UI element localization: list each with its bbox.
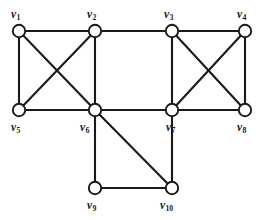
vertex-label-subscript: 9: [92, 204, 96, 213]
vertex-label-v7: v7: [166, 122, 175, 134]
graph-vertex-v10: [166, 182, 178, 194]
graph-vertex-v3: [166, 25, 178, 37]
vertex-label-subscript: 3: [169, 13, 173, 22]
graph-vertex-v8: [239, 104, 251, 116]
vertex-label-subscript: 4: [242, 13, 246, 22]
graph-vertex-v7: [166, 104, 178, 116]
vertex-label-v10: v10: [160, 200, 173, 212]
vertex-label-v8: v8: [237, 122, 246, 134]
vertex-label-subscript: 7: [171, 126, 175, 135]
vertex-label-v3: v3: [164, 9, 173, 21]
vertex-label-subscript: 6: [85, 126, 89, 135]
vertex-label-v2: v2: [87, 9, 96, 21]
vertex-label-v9: v9: [87, 200, 96, 212]
graph-vertex-v2: [89, 25, 101, 37]
vertex-label-v4: v4: [237, 9, 246, 21]
graph-vertex-v4: [239, 25, 251, 37]
vertex-label-subscript: 10: [165, 204, 173, 213]
graph-vertex-v6: [89, 104, 101, 116]
graph-vertex-v1: [13, 25, 25, 37]
vertex-label-subscript: 5: [16, 126, 20, 135]
vertex-label-subscript: 1: [16, 13, 20, 22]
vertex-label-v5: v5: [11, 122, 20, 134]
vertex-label-subscript: 2: [92, 13, 96, 22]
edge-layer: [19, 31, 245, 188]
graph-vertex-v9: [89, 182, 101, 194]
vertex-label-v6: v6: [80, 122, 89, 134]
graph-vertex-v5: [13, 104, 25, 116]
graph-canvas: [0, 0, 266, 220]
graph-edge-v6-v10: [95, 110, 172, 188]
vertex-label-subscript: 8: [242, 126, 246, 135]
vertex-label-v1: v1: [11, 9, 20, 21]
graph-figure: v1v2v3v4v5v6v7v8v9v10: [0, 0, 266, 220]
